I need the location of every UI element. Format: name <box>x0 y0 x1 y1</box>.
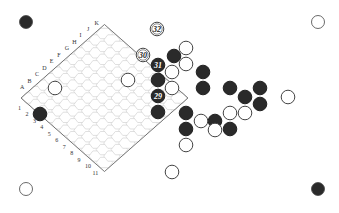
corner-marker-bottom-left <box>20 183 33 196</box>
row-label-10: 10 <box>85 163 91 169</box>
column-label-B: B <box>27 78 31 84</box>
white-stone <box>208 123 222 137</box>
column-label-G: G <box>65 45 70 51</box>
row-label-11: 11 <box>92 170 98 176</box>
row-label-9: 9 <box>78 157 81 163</box>
black-stone <box>238 90 252 104</box>
column-label-H: H <box>72 39 77 45</box>
black-stone: 31 <box>151 58 165 72</box>
black-stone: 29 <box>151 89 165 103</box>
column-label-D: D <box>42 65 47 71</box>
black-stone <box>167 49 181 63</box>
row-label-6: 6 <box>55 137 58 143</box>
row-label-5: 5 <box>48 131 51 137</box>
row-label-2: 2 <box>25 111 28 117</box>
column-label-E: E <box>50 58 54 64</box>
white-stone <box>121 73 135 87</box>
white-stone <box>281 90 295 104</box>
column-label-A: A <box>20 84 25 90</box>
white-stone <box>238 106 252 120</box>
black-stone <box>33 107 47 121</box>
move-number: 31 <box>153 61 162 70</box>
corner-marker-top-right <box>312 16 325 29</box>
white-stone <box>179 57 193 71</box>
white-stone: 30 <box>136 48 150 62</box>
white-stone <box>179 41 193 55</box>
row-label-4: 4 <box>40 124 43 130</box>
black-stone <box>253 97 267 111</box>
column-label-K: K <box>94 20 99 26</box>
hex-board[interactable]: ABCDEFGHIJK1234567891011 31293230 <box>0 0 339 213</box>
row-label-1: 1 <box>18 105 21 111</box>
black-stone <box>253 81 267 95</box>
black-stone <box>223 122 237 136</box>
black-stone <box>179 122 193 136</box>
black-stone <box>196 81 210 95</box>
black-stone <box>151 73 165 87</box>
column-label-F: F <box>57 52 61 58</box>
move-number: 32 <box>152 25 161 34</box>
row-label-7: 7 <box>63 144 66 150</box>
white-stone <box>48 81 62 95</box>
white-stone: 32 <box>150 22 164 36</box>
move-number: 29 <box>153 92 162 101</box>
white-stone <box>165 165 179 179</box>
black-stone <box>151 105 165 119</box>
move-number: 30 <box>138 51 147 60</box>
row-label-8: 8 <box>70 150 73 156</box>
corner-marker-bottom-right <box>312 183 325 196</box>
white-stone <box>165 65 179 79</box>
black-stone <box>179 106 193 120</box>
black-stone <box>223 81 237 95</box>
black-stone <box>196 65 210 79</box>
column-label-C: C <box>35 71 39 77</box>
corner-marker-top-left <box>20 16 33 29</box>
white-stone <box>194 114 208 128</box>
column-label-I: I <box>80 32 82 38</box>
white-stone <box>165 81 179 95</box>
white-stone <box>223 106 237 120</box>
column-label-J: J <box>87 26 90 32</box>
white-stone <box>179 138 193 152</box>
